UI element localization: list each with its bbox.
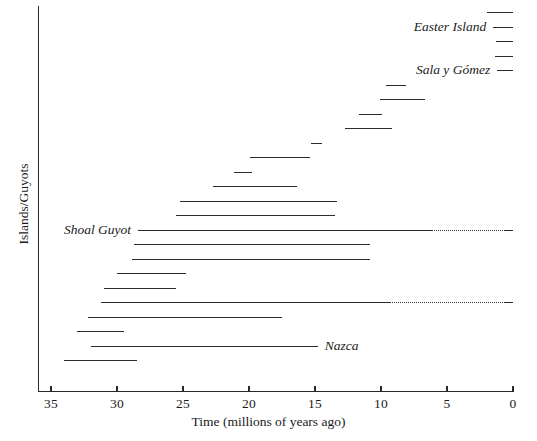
bar-segment xyxy=(180,201,337,202)
x-tick-0 xyxy=(512,386,513,392)
bar-segment xyxy=(493,27,513,28)
bar-segment xyxy=(132,259,371,260)
bar-segment xyxy=(101,302,390,303)
bar-label-sala-y-g-mez: Sala y Gómez xyxy=(416,62,490,78)
bar-segment xyxy=(495,56,513,57)
x-tick-10 xyxy=(380,386,381,392)
x-tick-label-5: 5 xyxy=(444,396,451,412)
bar-segment xyxy=(250,157,309,158)
bar-segment xyxy=(359,114,383,115)
bar-segment-dotted xyxy=(390,302,505,303)
x-tick-label-30: 30 xyxy=(110,396,124,412)
x-tick-label-35: 35 xyxy=(44,396,58,412)
x-tick-label-10: 10 xyxy=(374,396,388,412)
bar-segment xyxy=(104,288,177,289)
bar-segment xyxy=(91,346,318,347)
x-tick-30 xyxy=(116,386,117,392)
x-tick-25 xyxy=(182,386,183,392)
bar-segment xyxy=(134,244,370,245)
bar-segment xyxy=(64,360,137,361)
x-tick-label-0: 0 xyxy=(510,396,517,412)
bar-segment-tail xyxy=(505,302,513,303)
x-tick-15 xyxy=(314,386,315,392)
bar-segment xyxy=(176,215,334,216)
x-tick-20 xyxy=(248,386,249,392)
x-axis-line xyxy=(38,391,513,392)
bar-segment xyxy=(497,70,513,71)
bar-segment xyxy=(77,331,123,332)
bar-segment xyxy=(496,41,513,42)
x-tick-label-25: 25 xyxy=(176,396,190,412)
bar-segment xyxy=(345,128,391,129)
bar-segment xyxy=(386,85,406,86)
y-axis-title: Islands/Guyots xyxy=(16,134,32,274)
bar-segment xyxy=(487,12,513,13)
x-tick-35 xyxy=(50,386,51,392)
bar-label-shoal-guyot: Shoal Guyot xyxy=(64,222,131,238)
bar-label-easter-island: Easter Island xyxy=(414,19,486,35)
bar-segment xyxy=(380,99,425,100)
x-tick-label-20: 20 xyxy=(242,396,256,412)
x-axis-title: Time (millions of years ago) xyxy=(0,414,537,430)
bar-segment xyxy=(234,172,251,173)
x-tick-label-15: 15 xyxy=(308,396,322,412)
bar-segment xyxy=(117,273,186,274)
bar-segment xyxy=(213,186,296,187)
bar-segment xyxy=(311,143,322,144)
bar-segment xyxy=(88,317,282,318)
bar-segment-dotted xyxy=(432,230,505,231)
chart-canvas: 35302520151050 Easter IslandSala y Gómez… xyxy=(0,0,537,441)
bar-label-nazca: Nazca xyxy=(325,338,359,354)
bar-segment xyxy=(138,230,432,231)
bar-segment-tail xyxy=(505,230,513,231)
y-axis-line xyxy=(38,6,39,392)
x-tick-5 xyxy=(446,386,447,392)
